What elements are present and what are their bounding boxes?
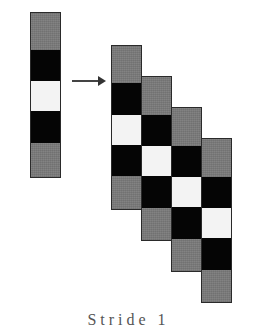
output-block-black [112, 145, 141, 176]
output-block-black [172, 207, 201, 239]
output-block-gray [142, 77, 171, 115]
output-block-white [172, 177, 201, 207]
output-block-black [142, 176, 171, 208]
output-block-black [172, 146, 201, 177]
figure-caption: Stride 1 [0, 311, 257, 329]
output-block-black [112, 83, 141, 115]
output-block-black [202, 238, 231, 270]
output-block-black [142, 115, 171, 146]
output-block-gray [202, 139, 231, 177]
output-block-gray [172, 108, 201, 146]
output-block-gray [172, 239, 201, 271]
output-column-2 [141, 76, 172, 241]
output-block-gray [202, 270, 231, 302]
source-block-black-lower [31, 111, 60, 143]
output-block-white [112, 115, 141, 145]
output-column-1 [111, 45, 142, 210]
output-block-white [202, 208, 231, 238]
right-arrow-icon [72, 80, 106, 82]
output-block-gray [142, 208, 171, 240]
output-block-white [142, 146, 171, 176]
source-block-white-center [31, 81, 60, 111]
output-block-black [202, 177, 231, 208]
source-block-gray-bottom [31, 143, 60, 177]
source-block-gray-top [31, 13, 60, 50]
output-block-gray [112, 176, 141, 209]
output-column-3 [171, 107, 202, 272]
arrow-head [98, 76, 106, 86]
output-block-gray [112, 46, 141, 83]
output-column-4 [201, 138, 232, 303]
source-block-black-upper [31, 50, 60, 81]
source-column [30, 12, 61, 178]
